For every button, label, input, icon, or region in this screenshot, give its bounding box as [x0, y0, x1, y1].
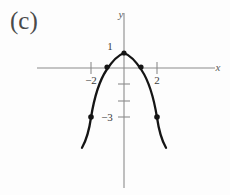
parabola-plot: y x 1 −3 −2 2	[0, 0, 230, 195]
x-axis-label: x	[215, 61, 221, 73]
x-tick-label-2: 2	[154, 74, 160, 86]
y-tick-label-1: 1	[107, 40, 113, 52]
x-tick-label-minus2: −2	[85, 74, 97, 86]
y-tick-label-minus3: −3	[101, 111, 113, 123]
point-x-intercept-right	[138, 64, 143, 69]
point-right-minus3	[154, 114, 160, 120]
figure-panel: (c) y x 1 −3 −2 2	[0, 0, 230, 195]
point-vertex	[121, 50, 126, 55]
y-axis-label: y	[118, 8, 124, 20]
point-x-intercept-left	[104, 64, 109, 69]
point-left-minus3	[88, 114, 94, 120]
